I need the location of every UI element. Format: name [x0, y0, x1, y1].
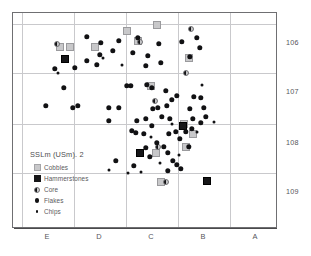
- figure-container: SSLm (USm). 2 Cobbles Hammerstones Core …: [0, 0, 311, 256]
- gridline-horizontal: [13, 124, 276, 125]
- data-point-flakes: [178, 166, 183, 171]
- data-point-flakes: [159, 114, 164, 119]
- data-point-flakes: [133, 130, 138, 135]
- data-point-flakes: [98, 40, 103, 45]
- data-point-cobbles: [152, 149, 160, 157]
- hammerstone-square-icon: [30, 175, 44, 182]
- data-point-flakes: [61, 85, 66, 90]
- x-axis-tick-label: C: [148, 232, 154, 241]
- y-axis-tick-label: 107: [286, 87, 299, 96]
- data-point-core: [152, 98, 158, 104]
- data-point-flakes: [72, 65, 77, 70]
- data-point-flakes: [94, 62, 99, 67]
- data-point-flakes: [169, 97, 174, 102]
- data-point-flakes: [165, 150, 170, 155]
- data-point-flakes: [134, 118, 139, 123]
- data-point-flakes: [110, 48, 115, 53]
- data-point-flakes: [190, 116, 195, 121]
- legend-item-label: Flakes: [44, 197, 63, 204]
- data-point-flakes: [147, 154, 152, 159]
- data-point-flakes: [106, 118, 111, 123]
- legend-item-label: Core: [44, 186, 58, 193]
- data-point-hammerstones: [136, 149, 144, 157]
- data-point-chips: [171, 123, 174, 126]
- data-point-flakes: [143, 63, 148, 68]
- legend-item-label: Cobbles: [44, 164, 68, 171]
- data-point-chips: [178, 154, 181, 157]
- data-point-flakes: [158, 60, 163, 65]
- y-axis-tick-label: 106: [286, 38, 299, 47]
- data-point-chips: [102, 57, 105, 60]
- cobble-square-icon: [30, 164, 44, 171]
- data-point-chips: [196, 131, 199, 134]
- legend-title: SSLm (USm). 2: [30, 150, 130, 159]
- data-point-flakes: [116, 105, 121, 110]
- core-half-circle-icon: [30, 187, 44, 193]
- data-point-cobbles: [66, 43, 74, 51]
- data-point-core: [163, 179, 169, 185]
- data-point-flakes: [164, 103, 169, 108]
- data-point-chips: [57, 72, 60, 75]
- data-point-flakes: [203, 114, 208, 119]
- data-point-flakes: [156, 41, 161, 46]
- gridline-horizontal: [13, 24, 276, 25]
- data-point-flakes: [163, 88, 168, 93]
- data-point-flakes: [143, 145, 148, 150]
- data-point-chips: [121, 64, 124, 67]
- legend-item-core: Core: [30, 184, 130, 195]
- legend-item-label: Hammerstones: [44, 175, 89, 182]
- data-point-flakes: [166, 131, 171, 136]
- data-point-flakes: [179, 39, 184, 44]
- data-point-flakes: [155, 105, 160, 110]
- data-point-chips: [140, 171, 143, 174]
- gridline-vertical: [22, 13, 23, 227]
- data-point-flakes: [143, 116, 148, 121]
- data-point-core: [183, 70, 189, 76]
- data-point-flakes: [130, 50, 135, 55]
- x-axis-tick-label: E: [44, 232, 49, 241]
- data-point-hammerstones: [61, 55, 69, 63]
- data-point-flakes: [201, 105, 206, 110]
- data-point-flakes: [131, 163, 136, 168]
- data-point-flakes: [141, 131, 146, 136]
- data-point-flakes: [106, 105, 111, 110]
- data-point-flakes: [198, 95, 203, 100]
- data-point-core: [188, 26, 194, 32]
- data-point-chips: [150, 136, 153, 139]
- data-point-cobbles: [123, 27, 131, 35]
- data-point-core: [54, 41, 60, 47]
- y-axis-tick-label: 109: [286, 187, 299, 196]
- legend-item-hammerstones: Hammerstones: [30, 173, 130, 184]
- data-point-flakes: [167, 116, 172, 121]
- data-point-cobbles: [153, 21, 161, 29]
- data-point-chips: [159, 162, 162, 165]
- data-point-chips: [213, 121, 216, 124]
- data-point-flakes: [197, 45, 202, 50]
- data-point-flakes: [177, 136, 182, 141]
- data-point-hammerstones: [203, 177, 211, 185]
- legend-item-flakes: Flakes: [30, 195, 130, 206]
- legend: SSLm (USm). 2 Cobbles Hammerstones Core …: [30, 150, 130, 217]
- x-axis-tick-label: D: [96, 232, 102, 241]
- data-point-flakes: [75, 103, 80, 108]
- data-point-flakes: [116, 38, 121, 43]
- x-axis-tick-label: B: [200, 232, 205, 241]
- y-axis-tick-label: 108: [286, 138, 299, 147]
- x-axis-tick-label: A: [252, 232, 257, 241]
- data-point-flakes: [194, 35, 199, 40]
- gridline-horizontal: [13, 73, 276, 74]
- chip-dot-icon: [30, 210, 44, 213]
- data-point-flakes: [84, 34, 89, 39]
- data-point-flakes: [84, 58, 89, 63]
- data-point-chips: [201, 84, 204, 87]
- data-point-flakes: [183, 129, 188, 134]
- data-point-flakes: [187, 106, 192, 111]
- gridline-vertical: [230, 13, 231, 227]
- figure-caption: [4, 249, 307, 256]
- data-point-flakes: [186, 144, 191, 149]
- data-point-flakes: [145, 53, 150, 58]
- gridline-vertical: [178, 13, 179, 227]
- data-point-flakes: [161, 144, 166, 149]
- legend-item-chips: Chips: [30, 206, 130, 217]
- flake-dot-icon: [30, 198, 44, 202]
